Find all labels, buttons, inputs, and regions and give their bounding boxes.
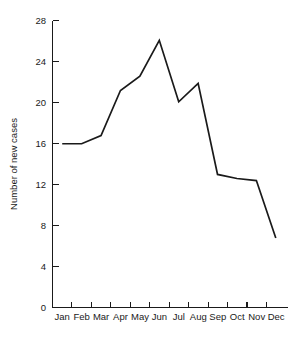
- y-axis-ticks: [53, 21, 59, 267]
- y-tick-label-16: 16: [35, 138, 46, 149]
- axis-spines: [53, 21, 288, 308]
- y-tick-label-24: 24: [35, 56, 46, 67]
- y-axis-tick-labels: 28 24 20 16 12 8 4 0: [35, 15, 46, 313]
- x-tick-label-may: May: [131, 311, 149, 322]
- x-tick-label-sep: Sep: [209, 311, 226, 322]
- x-axis-tick-labels: Jan Feb Mar Apr May Jun Jul Aug Sep Oct …: [55, 311, 285, 322]
- y-tick-label-20: 20: [35, 97, 46, 108]
- y-axis-title: Number of new cases: [8, 118, 19, 210]
- x-tick-label-oct: Oct: [230, 311, 245, 322]
- x-tick-label-jul: Jul: [173, 311, 185, 322]
- x-tick-label-aug: Aug: [190, 311, 207, 322]
- x-tick-label-jan: Jan: [55, 311, 70, 322]
- x-tick-label-feb: Feb: [73, 311, 89, 322]
- line-chart-figure: 28 24 20 16 12 8 4 0 Number of new cases: [0, 0, 296, 339]
- y-tick-label-0: 0: [41, 302, 46, 313]
- y-tick-label-28: 28: [35, 15, 46, 26]
- x-tick-label-nov: Nov: [248, 311, 265, 322]
- data-series-line: [62, 40, 276, 238]
- y-tick-label-4: 4: [41, 261, 46, 272]
- y-tick-label-12: 12: [35, 179, 46, 190]
- x-tick-label-dec: Dec: [268, 311, 285, 322]
- y-tick-label-8: 8: [41, 220, 46, 231]
- x-tick-label-jun: Jun: [152, 311, 167, 322]
- chart-canvas: 28 24 20 16 12 8 4 0 Number of new cases: [0, 0, 296, 339]
- x-tick-label-mar: Mar: [93, 311, 109, 322]
- x-axis-ticks: [72, 302, 267, 308]
- x-tick-label-apr: Apr: [113, 311, 128, 322]
